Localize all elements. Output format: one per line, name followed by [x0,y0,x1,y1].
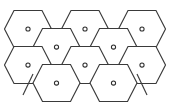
hex-center-node-icon [83,63,87,67]
hex-center-node-icon [140,27,144,31]
hex-lattice-figure [0,0,169,102]
hex-center-node-icon [111,81,115,85]
hex-center-node-icon [140,63,144,67]
hex-center-node-icon [111,45,115,49]
hex-center-node-icon [26,63,30,67]
hex-center-node-icon [54,81,58,85]
hex-center-node-icon [83,27,87,31]
hex-cell-layer [5,11,166,102]
hex-center-node-icon [54,45,58,49]
lattice-canvas [0,0,169,102]
hex-center-node-icon [26,27,30,31]
